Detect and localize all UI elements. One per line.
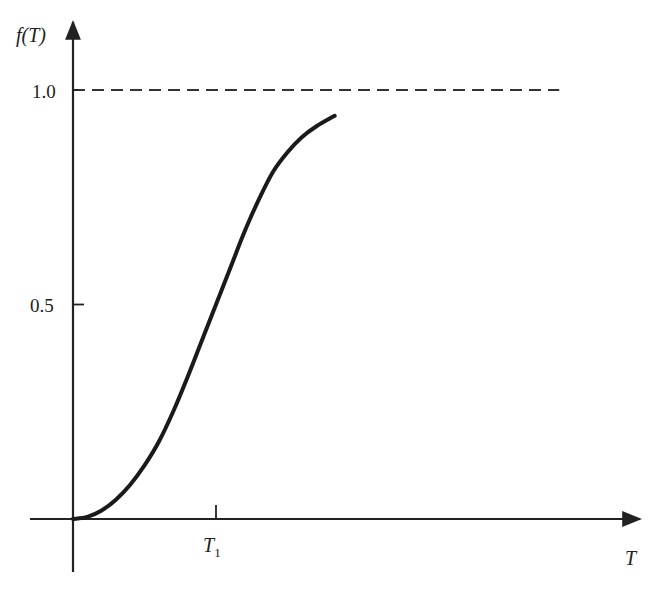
y-tick-label-1-0: 1.0 [32,81,56,102]
y-tick-label-0-5: 0.5 [30,295,54,316]
y-axis-label: f(T) [16,24,46,47]
x-tick-label-t1: T1 [203,534,221,560]
series-line-f-of-t [73,116,335,519]
chart: f(T) 1.0 0.5 T T1 [0,0,662,594]
x-axis-label: T [625,547,638,569]
